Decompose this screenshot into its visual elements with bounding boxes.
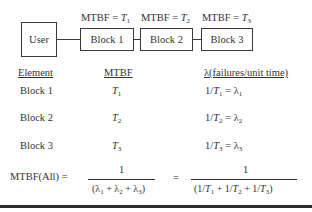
header-element: Element xyxy=(18,67,53,78)
row3-element: Block 3 xyxy=(20,140,53,151)
frac2-line xyxy=(191,179,297,180)
bottom-rule xyxy=(0,205,312,208)
block2-mtbf-annotation: MTBF = T2 xyxy=(141,12,190,25)
block3-mtbf-annotation: MTBF = T3 xyxy=(202,12,251,25)
block3-node: Block 3 xyxy=(201,28,253,51)
frac2-denominator: (1/T1 + 1/T2 + 1/T3) xyxy=(194,183,272,196)
header-mtbf: MTBF xyxy=(104,67,133,78)
row3-mtbf: T3 xyxy=(112,140,121,153)
row1-mtbf: T1 xyxy=(112,85,121,98)
formula-lhs: MTBF(All) = xyxy=(10,171,68,182)
row1-element: Block 1 xyxy=(20,85,53,96)
edge-user-block1 xyxy=(57,39,80,40)
row2-element: Block 2 xyxy=(20,112,53,123)
frac1-numerator: 1 xyxy=(119,164,124,175)
block1-mtbf-annotation: MTBF = T1 xyxy=(81,12,130,25)
frac1-denominator: (λ1 + λ2 + λ3) xyxy=(92,183,145,196)
frac2-numerator: 1 xyxy=(243,164,248,175)
row2-lambda: 1/T2 = λ2 xyxy=(205,112,242,125)
formula-equals: = xyxy=(173,172,179,183)
row1-lambda: 1/T1 = λ1 xyxy=(205,85,242,98)
block1-node: Block 1 xyxy=(80,28,134,51)
block1-label: Block 1 xyxy=(91,34,124,45)
row3-lambda: 1/T3 = λ3 xyxy=(205,140,242,153)
row2-mtbf: T2 xyxy=(112,112,121,125)
block2-node: Block 2 xyxy=(140,28,193,51)
header-lambda: λ(failures/unit time) xyxy=(204,67,288,78)
block2-label: Block 2 xyxy=(150,34,183,45)
user-node: User xyxy=(21,22,57,57)
block3-label: Block 3 xyxy=(211,34,244,45)
user-node-label: User xyxy=(29,34,49,45)
frac1-line xyxy=(88,179,155,180)
edge-block2-block3 xyxy=(193,39,201,40)
